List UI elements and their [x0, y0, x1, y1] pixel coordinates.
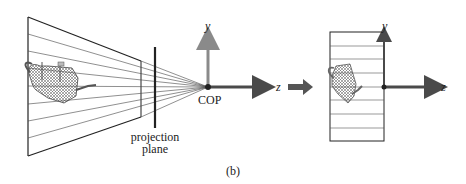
- z-axis-label-left: z: [275, 80, 281, 94]
- figure-caption: (b): [226, 164, 240, 178]
- teapot-wireframe-right: [329, 64, 362, 103]
- transform-arrow-icon: [288, 79, 313, 95]
- projection-plane-label-2: plane: [142, 142, 168, 156]
- z-axis-label-right: z: [440, 80, 446, 94]
- teapot-wireframe-left: [26, 62, 96, 103]
- right-axes: [382, 34, 437, 90]
- left-axes: [205, 38, 264, 90]
- y-axis-label-right: y: [381, 19, 388, 33]
- cop-point: [205, 84, 211, 90]
- cop-label: COP: [198, 93, 222, 107]
- y-axis-label-left: y: [204, 19, 211, 33]
- origin-point-right: [382, 85, 387, 90]
- perspective-projection-diagram: y z COP projection plane y z (b): [0, 0, 466, 184]
